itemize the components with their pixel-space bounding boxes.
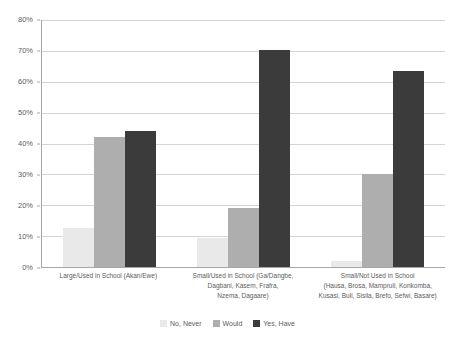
x-axis-labels: Large/Used in School (Akan/Ewe) Small/Us…	[41, 271, 445, 313]
bar-group-bars	[176, 20, 310, 267]
legend-swatch-icon	[160, 320, 167, 327]
legend-item-no-never[interactable]: No, Never	[160, 320, 202, 327]
legend-swatch-icon	[213, 320, 220, 327]
bar-group-bars	[311, 20, 445, 267]
bar-group	[311, 20, 445, 267]
x-label-line: Kusasi, Buli, Sisila, Brefo, Sefwi, Basa…	[312, 291, 443, 301]
legend-label: Would	[223, 320, 243, 327]
bar-group	[176, 20, 310, 267]
bar-group	[42, 20, 176, 267]
y-tick-mark	[37, 113, 40, 114]
legend-label: Yes, Have	[263, 320, 295, 327]
y-tick-mark	[37, 144, 40, 145]
y-tick-mark	[37, 175, 40, 176]
y-tick-label: 20%	[18, 202, 33, 210]
bar-yes-have[interactable]	[259, 50, 290, 267]
y-tick-label: 80%	[18, 16, 33, 24]
y-tick-label: 50%	[18, 109, 33, 117]
chart-legend: No, Never Would Yes, Have	[0, 320, 455, 327]
x-label-line: Small/Not Used in School	[312, 271, 443, 281]
y-tick-label: 60%	[18, 78, 33, 86]
legend-item-would[interactable]: Would	[213, 320, 243, 327]
legend-swatch-icon	[253, 320, 260, 327]
x-axis-label-category-2: Small/Used in School (Ga/Dangbe, Dagbani…	[176, 271, 311, 313]
bar-would[interactable]	[228, 208, 259, 267]
x-label-line: (Hausa, Brosa, Mampruli, Konkomba,	[312, 281, 443, 291]
y-tick-label: 30%	[18, 171, 33, 179]
bar-would[interactable]	[362, 174, 393, 267]
y-tick-mark	[37, 82, 40, 83]
x-axis-label-category-3: Small/Not Used in School (Hausa, Brosa, …	[310, 271, 445, 313]
x-axis-label-category-1: Large/Used in School (Akan/Ewe)	[41, 271, 176, 313]
plot-area	[41, 20, 445, 268]
legend-item-yes-have[interactable]: Yes, Have	[253, 320, 295, 327]
bar-no-never[interactable]	[197, 238, 228, 267]
bar-yes-have[interactable]	[125, 131, 156, 267]
y-tick-mark	[37, 237, 40, 238]
y-tick-mark	[37, 206, 40, 207]
bar-no-never[interactable]	[331, 261, 362, 267]
x-label-line: Large/Used in School (Akan/Ewe)	[43, 271, 174, 281]
legend-label: No, Never	[170, 320, 202, 327]
y-tick-mark	[37, 268, 40, 269]
x-label-line: Small/Used in School (Ga/Dangbe,	[178, 271, 309, 281]
x-label-line: Dagbani, Kasem, Frafra,	[178, 281, 309, 291]
bar-chart: 80% 70% 60% 50% 40% 30% 20% 10% 0%	[0, 0, 455, 340]
bar-yes-have[interactable]	[393, 71, 424, 267]
bar-groups	[42, 20, 445, 267]
x-label-line: Nzema, Dagaare)	[178, 291, 309, 301]
bar-no-never[interactable]	[63, 228, 94, 267]
y-tick-label: 0%	[22, 264, 33, 272]
bar-group-bars	[42, 20, 176, 267]
y-tick-label: 70%	[18, 47, 33, 55]
y-axis: 80% 70% 60% 50% 40% 30% 20% 10% 0%	[0, 20, 37, 268]
y-tick-mark	[37, 20, 40, 21]
y-tick-label: 40%	[18, 140, 33, 148]
y-tick-label: 10%	[18, 233, 33, 241]
bar-would[interactable]	[94, 137, 125, 267]
y-tick-mark	[37, 51, 40, 52]
